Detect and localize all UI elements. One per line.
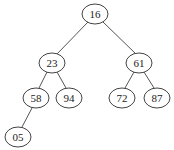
tree-edge-n61-n72: [125, 72, 134, 88]
node-label: 87: [152, 92, 164, 104]
tree-edge-n61-n87: [144, 72, 154, 88]
tree-nodes: 1623615894728705: [5, 4, 170, 147]
node-label: 23: [47, 57, 59, 69]
tree-node-87: 87: [144, 88, 170, 108]
tree-edge-n58-n05: [22, 108, 32, 127]
binary-tree-diagram: 1623615894728705: [0, 0, 174, 150]
tree-edge-n23-n58: [39, 72, 47, 88]
tree-edge-n16-n23: [57, 22, 88, 54]
tree-edges: [22, 22, 154, 127]
node-label: 16: [90, 8, 102, 20]
node-label: 61: [134, 57, 145, 69]
tree-edge-n16-n61: [103, 22, 136, 54]
tree-node-72: 72: [109, 88, 135, 108]
tree-node-61: 61: [126, 53, 152, 73]
tree-edge-n23-n94: [57, 72, 66, 88]
tree-node-23: 23: [39, 53, 65, 73]
node-label: 94: [64, 92, 76, 104]
tree-node-58: 58: [23, 88, 49, 108]
tree-node-16: 16: [82, 4, 108, 24]
node-label: 58: [31, 92, 43, 104]
tree-node-05: 05: [5, 127, 31, 147]
tree-node-94: 94: [56, 88, 82, 108]
node-label: 72: [117, 92, 128, 104]
node-label: 05: [13, 131, 25, 143]
